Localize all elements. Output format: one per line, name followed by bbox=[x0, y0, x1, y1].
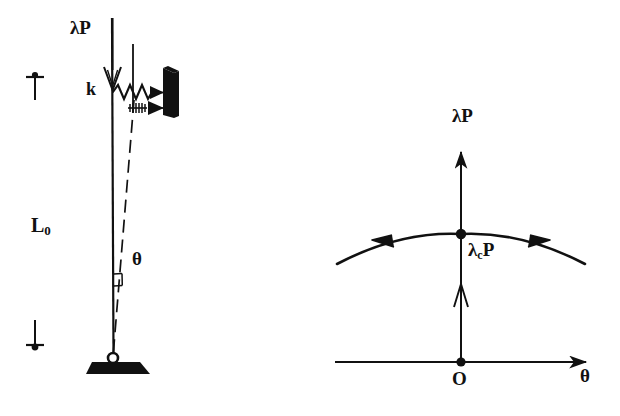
origin-dot bbox=[456, 357, 465, 366]
elastic-column-schematic bbox=[26, 18, 179, 374]
damper-coil bbox=[128, 103, 147, 113]
pivot-hinge bbox=[108, 353, 118, 363]
fixed-wall bbox=[163, 66, 179, 118]
critical-load-lambda: λ bbox=[468, 239, 477, 260]
bifurcation-point-dot bbox=[456, 229, 466, 239]
deflection-angle-label: θ bbox=[132, 249, 142, 268]
horizontal-axis-label: θ bbox=[580, 366, 590, 385]
column-length-base: L bbox=[31, 214, 44, 236]
load-label-left: λP bbox=[70, 18, 91, 37]
angle-tick-marks bbox=[114, 273, 123, 286]
column-length-label: L0 bbox=[31, 215, 51, 237]
critical-load-p: P bbox=[483, 239, 495, 260]
bifurcation-diagram bbox=[335, 152, 586, 367]
reference-dashed-line bbox=[113, 100, 134, 357]
column-length-subscript: 0 bbox=[44, 223, 51, 238]
dimension-marker-bottom bbox=[26, 320, 44, 350]
figure-root: λP k L0 θ λP λcP O θ bbox=[0, 0, 620, 416]
figure-canvas bbox=[0, 0, 620, 416]
ground-base-plate bbox=[86, 362, 150, 374]
vertical-axis-label: λP bbox=[452, 106, 473, 125]
spring-stiffness-label: k bbox=[86, 80, 96, 98]
origin-label: O bbox=[452, 369, 467, 388]
dimension-marker-top bbox=[26, 72, 44, 100]
critical-load-label: λcP bbox=[468, 240, 494, 261]
